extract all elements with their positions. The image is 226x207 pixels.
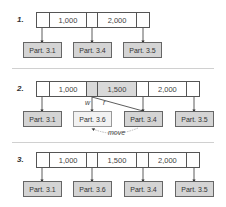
partition-box: Part. 3.1 xyxy=(23,42,62,58)
partition-box: Part. 3.5 xyxy=(175,181,214,197)
partition-box: Part. 3.5 xyxy=(175,111,214,127)
partition-box: Part. 3.4 xyxy=(73,42,112,58)
key-cell: 2,000 xyxy=(149,82,188,96)
pointer-cell xyxy=(37,82,50,96)
pointer-cell xyxy=(137,82,149,96)
pointer-cell xyxy=(187,153,199,167)
read-label: r xyxy=(103,99,105,106)
step-3-label: 3. xyxy=(17,155,24,164)
pointer-cell xyxy=(187,82,199,96)
arrows-layer xyxy=(0,0,226,207)
key-cell: 1,000 xyxy=(50,82,88,96)
step-1-label: 1. xyxy=(17,15,24,24)
partition-box: Part. 3.1 xyxy=(23,111,62,127)
key-cell-highlighted: 1,500 xyxy=(98,82,137,96)
partition-box: Part. 3.6 xyxy=(73,181,112,197)
key-cell: 1,500 xyxy=(98,153,137,167)
pointer-cell-highlighted xyxy=(87,82,98,96)
pointer-cell xyxy=(87,153,98,167)
write-label: w xyxy=(85,99,90,106)
pointer-cell xyxy=(137,13,149,27)
step-1-key-bar: 1,000 2,000 xyxy=(36,12,150,28)
key-cell: 2,000 xyxy=(149,153,188,167)
pointer-cell xyxy=(87,13,98,27)
key-cell: 1,000 xyxy=(50,153,88,167)
step-2-label: 2. xyxy=(17,84,24,93)
step-2-key-bar: 1,000 1,500 2,000 xyxy=(36,81,200,97)
divider xyxy=(12,68,214,69)
partition-box: Part. 3.5 xyxy=(123,42,162,58)
step-3-key-bar: 1,000 1,500 2,000 xyxy=(36,152,200,168)
pointer-cell xyxy=(37,153,50,167)
partition-box: Part. 3.4 xyxy=(124,181,163,197)
partition-box: Part. 3.1 xyxy=(23,181,62,197)
key-cell: 2,000 xyxy=(98,13,137,27)
move-label: move xyxy=(108,129,125,136)
pointer-cell xyxy=(37,13,50,27)
key-cell: 1,000 xyxy=(50,13,87,27)
divider xyxy=(12,142,214,143)
partition-box-new: Part. 3.6 xyxy=(73,111,112,127)
pointer-cell xyxy=(137,153,149,167)
partition-box: Part. 3.4 xyxy=(124,111,163,127)
